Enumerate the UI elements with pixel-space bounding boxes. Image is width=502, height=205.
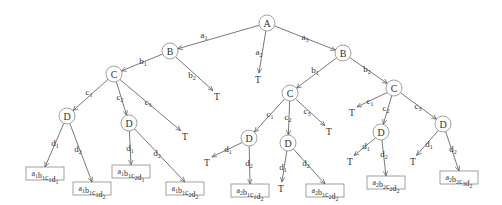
edge-label: d1	[279, 162, 287, 173]
decision-node-D: D	[59, 108, 75, 124]
leaf-outcome-box: a2b2c2d2	[367, 176, 405, 194]
node-label: D	[439, 119, 446, 130]
edge-label: c2	[285, 112, 292, 123]
terminal-node: T	[204, 158, 210, 168]
decision-node-C: C	[386, 80, 402, 96]
node-label: D	[245, 133, 252, 144]
edge-label: b2	[188, 70, 196, 81]
edge-label: c2	[117, 92, 124, 103]
node-label: D	[377, 127, 384, 138]
terminal-node: T	[182, 132, 188, 142]
decision-node-C: C	[106, 66, 122, 82]
edge-label: b2	[363, 64, 371, 75]
terminal-node: T	[326, 127, 332, 137]
edge-B1-T_b2	[176, 57, 213, 91]
leaf-outcome-box: a1b1c1d1	[26, 167, 64, 185]
decision-tree-diagram: a1a2a3b1b2b1b2c1c2c3c1c2c3c1c2c3d1d2d1d2…	[0, 0, 502, 205]
leaf-outcome-box: a1b1c1d2	[73, 182, 111, 200]
edge-label: a1	[201, 30, 208, 41]
decision-node-B: B	[162, 43, 178, 59]
node-label: A	[263, 18, 271, 29]
terminal-node: T	[214, 92, 220, 102]
leaf-outcome-box: a2b2c3d2	[440, 171, 478, 189]
node-label: B	[340, 48, 347, 59]
edge-label: c2	[383, 103, 390, 114]
leaf-outcome-box: a2b1c1d2	[231, 184, 269, 202]
node-label: D	[284, 138, 291, 149]
edge-label: b1	[311, 65, 319, 76]
decision-node-D: D	[280, 135, 296, 151]
node-label: B	[167, 46, 174, 57]
node-label: D	[63, 111, 70, 122]
terminal-node: T	[349, 108, 355, 118]
terminal-node: T	[410, 157, 416, 167]
edge-label: d1	[51, 138, 59, 149]
terminal-node: T	[278, 184, 284, 194]
decision-node-B: B	[335, 45, 351, 61]
edge-label: b1	[139, 56, 147, 67]
node-label: C	[111, 69, 118, 80]
edge-label: c1	[267, 109, 274, 120]
node-label: C	[287, 88, 294, 99]
decision-node-D: D	[373, 124, 389, 140]
decision-node-D: D	[121, 115, 137, 131]
edge-label: d2	[302, 158, 310, 169]
node-label: C	[391, 83, 398, 94]
edge-label: d1	[126, 143, 134, 154]
decision-node-A: A	[259, 15, 275, 31]
edge-label: d1	[425, 139, 433, 150]
edge-A-B1	[178, 25, 260, 49]
leaves-layer: a1b1c1d1a1b1c1d2a1b1c2d1a1b1c2d2a2b1c1d2…	[26, 165, 478, 202]
edge-label: d1	[362, 141, 370, 152]
edge-label: d2	[245, 158, 253, 169]
decision-node-D: D	[241, 130, 257, 146]
decision-node-D: D	[435, 116, 451, 132]
edge-label: d1	[224, 144, 232, 155]
edges-layer	[45, 25, 459, 184]
edge-label: a2	[256, 47, 263, 58]
leaf-outcome-box: a1b1c2d2	[166, 182, 204, 200]
edge-label: c3	[415, 101, 422, 112]
edge-label: c3	[304, 106, 311, 117]
edge-label: c1	[367, 96, 374, 107]
node-label: D	[125, 118, 132, 129]
edge-label: a3	[302, 32, 309, 43]
edge-label: d2	[380, 149, 388, 160]
decision-node-C: C	[282, 85, 298, 101]
terminal-node: T	[347, 157, 353, 167]
edge-label: c3	[145, 97, 152, 108]
edge-label: d2	[449, 144, 457, 155]
terminal-node: T	[255, 75, 261, 85]
edge-label: d2	[153, 148, 161, 159]
leaf-outcome-box: a1b1c2d1	[112, 165, 150, 183]
edge-label: c1	[86, 87, 93, 98]
edge-labels-layer: a1a2a3b1b2b1b2c1c2c3c1c2c3c1c2c3d1d2d1d2…	[51, 30, 457, 173]
leaf-outcome-box: a2b1c2d2	[306, 184, 344, 202]
edge-label: d2	[74, 144, 82, 155]
